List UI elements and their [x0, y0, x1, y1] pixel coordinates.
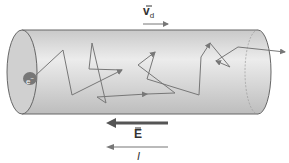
conductor-cylinder: [7, 30, 271, 114]
drift-velocity-label: vd: [143, 4, 154, 20]
electron-marker: e−: [23, 72, 37, 85]
current-label: I: [137, 150, 140, 162]
electric-field-label: E: [134, 127, 142, 141]
conductor-diagram: [0, 0, 289, 163]
